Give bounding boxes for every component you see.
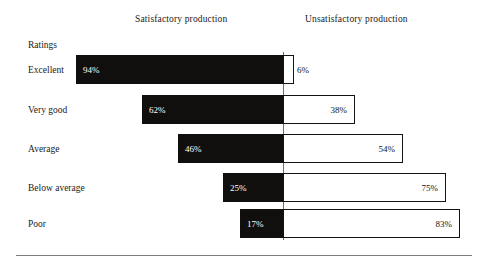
bar-value-unsatisfactory: 75% xyxy=(422,183,439,193)
bar-value-unsatisfactory: 6% xyxy=(297,65,309,75)
bar-unsatisfactory: 38% xyxy=(283,95,355,124)
bar-value-unsatisfactory: 38% xyxy=(331,105,348,115)
bar-row-label: Below average xyxy=(28,183,85,193)
bar-satisfactory: 46% xyxy=(178,134,283,163)
bottom-divider-rule xyxy=(16,255,472,256)
bar-row-label: Poor xyxy=(28,219,46,229)
bar-unsatisfactory: 75% xyxy=(283,173,446,202)
bar-row-label: Excellent xyxy=(28,65,64,75)
bar-satisfactory: 25% xyxy=(223,173,283,202)
column-header-satisfactory: Satisfactory production xyxy=(135,14,227,24)
bar-value-satisfactory: 62% xyxy=(149,105,166,115)
bar-value-satisfactory: 17% xyxy=(247,219,264,229)
bar-value-unsatisfactory: 83% xyxy=(436,219,453,229)
bar-row-label: Very good xyxy=(28,105,67,115)
bar-row: Average46%54% xyxy=(0,134,488,163)
bar-value-satisfactory: 46% xyxy=(185,144,202,154)
diverging-bar-chart: Satisfactory production Unsatisfactory p… xyxy=(0,0,488,262)
bar-row-label: Average xyxy=(28,144,59,154)
bar-row: Excellent94%6% xyxy=(0,55,488,84)
bar-unsatisfactory: 54% xyxy=(283,134,403,163)
ratings-axis-caption: Ratings xyxy=(28,40,57,50)
bar-satisfactory: 94% xyxy=(76,55,283,84)
bar-row: Below average25%75% xyxy=(0,173,488,202)
bar-row: Poor17%83% xyxy=(0,209,488,238)
bar-value-satisfactory: 94% xyxy=(83,65,100,75)
bar-unsatisfactory: 6% xyxy=(283,55,294,84)
bar-value-unsatisfactory: 54% xyxy=(379,144,396,154)
bar-unsatisfactory: 83% xyxy=(283,209,460,238)
bar-value-satisfactory: 25% xyxy=(230,183,247,193)
column-header-unsatisfactory: Unsatisfactory production xyxy=(305,14,408,24)
bar-satisfactory: 17% xyxy=(240,209,283,238)
bar-row: Very good62%38% xyxy=(0,95,488,124)
bar-satisfactory: 62% xyxy=(142,95,283,124)
